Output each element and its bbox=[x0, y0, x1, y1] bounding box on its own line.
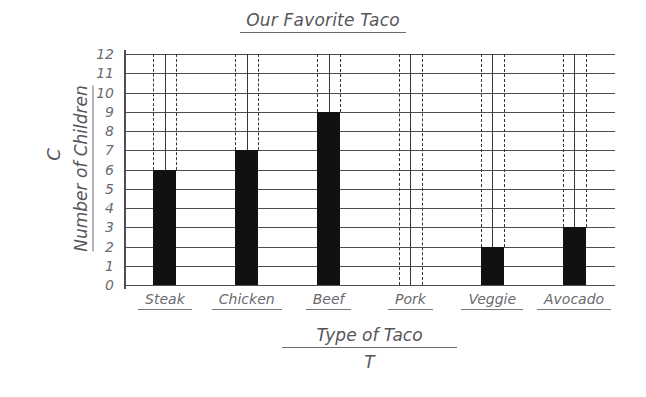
y-tick-label-7: 7 bbox=[92, 143, 114, 157]
gridline-7 bbox=[124, 150, 615, 151]
y-tick-label-1: 1 bbox=[92, 259, 114, 273]
y-tick-label-4: 4 bbox=[92, 201, 114, 215]
y-tick-label-10: 10 bbox=[92, 86, 114, 100]
gridline-6 bbox=[124, 170, 615, 171]
bar-chart: Our Favorite Taco C Number of Children 0… bbox=[0, 0, 646, 397]
x-category-label-text: Steak bbox=[138, 291, 192, 310]
gridline-5 bbox=[124, 189, 615, 190]
bar-steak bbox=[153, 170, 176, 286]
gridline-11 bbox=[124, 73, 615, 74]
guide-center-pork bbox=[410, 54, 411, 285]
x-category-label-chicken: Chicken bbox=[206, 291, 288, 310]
guide-dash-veggie-left bbox=[481, 54, 482, 247]
gridline-4 bbox=[124, 208, 615, 209]
gridline-1 bbox=[124, 266, 615, 267]
guide-dash-beef-left bbox=[317, 54, 318, 112]
x-category-label-text: Avocado bbox=[537, 291, 611, 310]
guide-center-veggie bbox=[492, 54, 493, 247]
gridline-9 bbox=[124, 112, 615, 113]
guide-center-steak bbox=[165, 54, 166, 170]
gridline-0 bbox=[124, 285, 615, 286]
y-tick-label-12: 12 bbox=[92, 47, 114, 61]
x-category-label-text: Beef bbox=[306, 291, 352, 310]
guide-dash-pork-left bbox=[399, 54, 400, 285]
bar-avocado bbox=[563, 227, 586, 285]
x-category-label-text: Pork bbox=[388, 291, 433, 310]
y-tick-label-2: 2 bbox=[92, 240, 114, 254]
y-tick-label-11: 11 bbox=[92, 66, 114, 80]
y-axis-title: Number of Children bbox=[71, 74, 94, 264]
guide-center-avocado bbox=[574, 54, 575, 227]
gridline-10 bbox=[124, 93, 615, 94]
guide-dash-chicken-left bbox=[235, 54, 236, 150]
gridline-2 bbox=[124, 247, 615, 248]
guide-dash-steak-right bbox=[176, 54, 177, 170]
x-axis-title: Type of Taco bbox=[124, 325, 615, 348]
guide-center-beef bbox=[329, 54, 330, 112]
guide-dash-avocado-left bbox=[563, 54, 564, 227]
guide-dash-steak-left bbox=[153, 54, 154, 170]
x-category-label-pork: Pork bbox=[370, 291, 452, 310]
guide-dash-beef-right bbox=[340, 54, 341, 112]
bar-chicken bbox=[235, 150, 258, 285]
x-category-label-text: Veggie bbox=[461, 291, 523, 310]
gridline-3 bbox=[124, 227, 615, 228]
guide-dash-veggie-right bbox=[504, 54, 505, 247]
x-category-label-veggie: Veggie bbox=[451, 291, 533, 310]
y-tick-label-5: 5 bbox=[92, 182, 114, 196]
x-category-label-text: Chicken bbox=[212, 291, 282, 310]
guide-center-chicken bbox=[247, 54, 248, 150]
gridline-8 bbox=[124, 131, 615, 132]
x-axis-variable: T bbox=[124, 352, 615, 372]
x-axis-title-text: Type of Taco bbox=[282, 325, 456, 348]
y-tick-label-6: 6 bbox=[92, 163, 114, 177]
y-tick-label-0: 0 bbox=[92, 278, 114, 292]
x-category-label-steak: Steak bbox=[124, 291, 206, 310]
chart-title: Our Favorite Taco bbox=[0, 10, 646, 33]
guide-dash-avocado-right bbox=[586, 54, 587, 227]
x-category-label-beef: Beef bbox=[288, 291, 370, 310]
y-axis-title-text: Number of Children bbox=[71, 85, 94, 252]
y-axis-variable: C bbox=[43, 142, 64, 168]
guide-dash-pork-right bbox=[422, 54, 423, 285]
plot-area bbox=[124, 54, 615, 285]
bar-beef bbox=[317, 112, 340, 285]
y-tick-label-3: 3 bbox=[92, 220, 114, 234]
chart-title-text: Our Favorite Taco bbox=[240, 10, 406, 33]
y-tick-label-8: 8 bbox=[92, 124, 114, 138]
y-tick-label-9: 9 bbox=[92, 105, 114, 119]
guide-dash-chicken-right bbox=[258, 54, 259, 150]
gridline-12 bbox=[124, 54, 615, 55]
x-category-label-avocado: Avocado bbox=[533, 291, 615, 310]
bar-veggie bbox=[481, 247, 504, 286]
